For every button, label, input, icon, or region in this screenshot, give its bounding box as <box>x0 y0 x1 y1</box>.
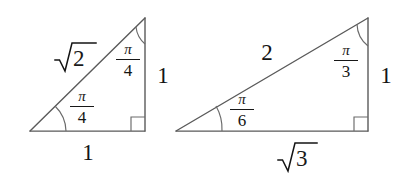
triangles-svg <box>0 0 397 181</box>
fraction-bar <box>230 109 254 110</box>
right-triangle-apex-angle-label: π 3 <box>334 43 358 81</box>
left-triangle-left-angle-numerator: π <box>70 89 94 105</box>
right-triangle-right-angle-marker <box>354 117 368 131</box>
left-triangle-left-angle-label: π 4 <box>70 89 94 127</box>
fraction-bar <box>334 60 358 61</box>
right-triangle-vertical-leg-label: 1 <box>378 64 394 87</box>
left-triangle-apex-angle-denominator: 4 <box>116 61 140 80</box>
right-triangle-apex-angle-arc <box>357 24 368 46</box>
left-triangle-apex-angle-numerator: π <box>116 42 140 58</box>
right-triangle-left-angle-arc <box>216 106 222 131</box>
geometry-figure: 2 π 4 π 4 1 1 2 π 3 π 6 1 3 <box>0 0 397 181</box>
left-triangle-hypotenuse-radicand: 2 <box>73 46 85 72</box>
right-triangle-apex-angle-denominator: 3 <box>334 62 358 81</box>
left-triangle-hypotenuse-label: 2 <box>54 41 98 73</box>
right-triangle-horizontal-leg-radicand: 3 <box>296 146 308 172</box>
right-triangle-apex-angle-numerator: π <box>334 43 358 59</box>
right-triangle-left-angle-numerator: π <box>230 92 254 108</box>
left-triangle-right-angle-marker <box>131 117 145 131</box>
right-triangle-left-angle-label: π 6 <box>230 92 254 130</box>
left-triangle-left-angle-denominator: 4 <box>70 108 94 127</box>
left-triangle-vertical-leg-label: 1 <box>155 64 171 87</box>
fraction-bar <box>116 59 140 60</box>
right-triangle-hypotenuse-label: 2 <box>258 41 276 64</box>
left-triangle-horizontal-leg-label: 1 <box>80 141 96 164</box>
left-triangle-left-angle-arc <box>55 106 66 131</box>
right-triangle-left-angle-denominator: 6 <box>230 111 254 130</box>
right-triangle-horizontal-leg-label: 3 <box>277 141 319 173</box>
fraction-bar <box>70 106 94 107</box>
left-triangle-apex-angle-label: π 4 <box>116 42 140 80</box>
